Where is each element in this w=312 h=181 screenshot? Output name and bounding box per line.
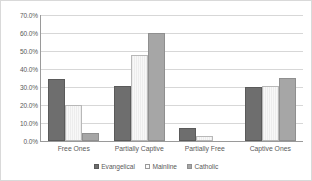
- y-tick-label: 40.0%: [20, 66, 38, 73]
- bar-mainline-free-ones[interactable]: [65, 105, 82, 141]
- bar-group: [107, 15, 173, 141]
- legend-item-mainline[interactable]: Mainline: [145, 163, 177, 170]
- y-tick-label: 60.0%: [20, 30, 38, 37]
- bars: [172, 15, 238, 141]
- legend-swatch-icon: [187, 164, 192, 169]
- legend-label: Evangelical: [101, 163, 135, 170]
- plot-area: [41, 15, 303, 141]
- bar-chart: 70.0%60.0%50.0%40.0%30.0%20.0%10.0%0.0% …: [0, 0, 312, 181]
- y-tick-label: 50.0%: [20, 48, 38, 55]
- bars: [107, 15, 173, 141]
- y-tick-label: 70.0%: [20, 12, 38, 19]
- bar-evangelical-free-ones[interactable]: [48, 79, 65, 141]
- x-label-partially-free: Partially Free: [172, 145, 238, 152]
- y-tick-label: 30.0%: [20, 84, 38, 91]
- x-label-partially-captive: Partially Captive: [107, 145, 173, 152]
- legend-swatch-icon: [94, 164, 99, 169]
- bar-group: [238, 15, 304, 141]
- x-label-captive-ones: Captive Ones: [238, 145, 304, 152]
- bars: [238, 15, 304, 141]
- gridline-0: [41, 141, 303, 142]
- legend-item-catholic[interactable]: Catholic: [187, 163, 218, 170]
- y-tick-label: 20.0%: [20, 102, 38, 109]
- bar-evangelical-partially-free[interactable]: [179, 128, 196, 141]
- y-tick-label: 0.0%: [24, 138, 38, 145]
- bars: [41, 15, 107, 141]
- bar-catholic-partially-captive[interactable]: [148, 33, 165, 141]
- bar-groups: [41, 15, 303, 141]
- bar-evangelical-captive-ones[interactable]: [245, 87, 262, 141]
- legend-label: Catholic: [194, 163, 218, 170]
- bar-catholic-captive-ones[interactable]: [279, 78, 296, 141]
- y-tick-label: 10.0%: [20, 120, 38, 127]
- bar-mainline-partially-free[interactable]: [196, 136, 213, 141]
- legend-label: Mainline: [152, 163, 177, 170]
- bar-mainline-partially-captive[interactable]: [131, 55, 148, 141]
- legend-swatch-icon: [145, 164, 150, 169]
- legend-item-evangelical[interactable]: Evangelical: [94, 163, 135, 170]
- legend: EvangelicalMainlineCatholic: [1, 163, 311, 170]
- x-label-free-ones: Free Ones: [41, 145, 107, 152]
- y-axis-tick-labels: 70.0%60.0%50.0%40.0%30.0%20.0%10.0%0.0%: [1, 15, 38, 141]
- bar-catholic-free-ones[interactable]: [82, 133, 99, 141]
- bar-group: [172, 15, 238, 141]
- bar-group: [41, 15, 107, 141]
- bar-mainline-captive-ones[interactable]: [262, 86, 279, 141]
- x-axis-category-labels: Free OnesPartially CaptivePartially Free…: [41, 145, 303, 152]
- bar-evangelical-partially-captive[interactable]: [114, 86, 131, 141]
